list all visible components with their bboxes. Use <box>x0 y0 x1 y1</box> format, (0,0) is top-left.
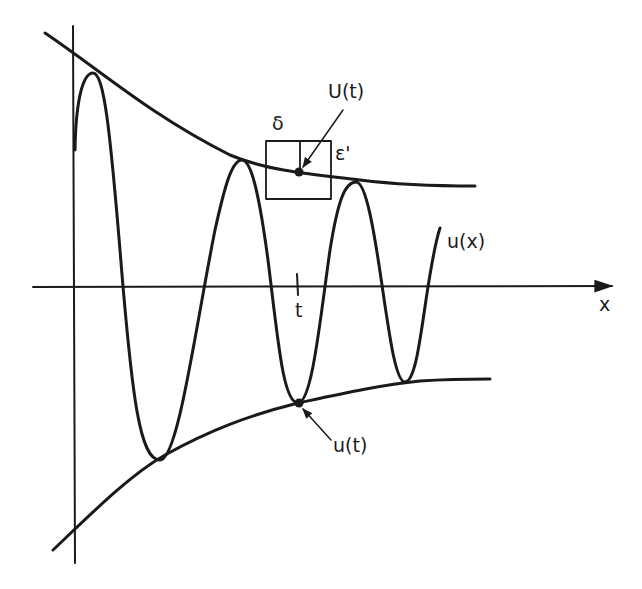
lower-point-u-t <box>295 399 304 408</box>
upper-point-U-t <box>295 168 304 177</box>
x-axis <box>33 286 612 287</box>
u-t-pointer-arrow <box>303 409 331 440</box>
lower-envelope-curve <box>53 379 490 550</box>
label-u-t: u(t) <box>333 434 367 456</box>
label-delta: δ <box>272 112 284 134</box>
label-x-axis: x <box>599 293 610 315</box>
y-axis <box>73 26 75 563</box>
label-u-x: u(x) <box>447 230 485 252</box>
upper-envelope-curve <box>45 33 475 186</box>
t-tick <box>297 274 298 295</box>
label-epsilon-prime: ε' <box>335 142 351 164</box>
label-U-t: U(t) <box>328 80 364 102</box>
label-t-tick: t <box>295 299 302 321</box>
function-curve <box>75 73 440 460</box>
diagram-canvas: U(t) δ ε' u(x) x t u(t) <box>0 0 642 589</box>
